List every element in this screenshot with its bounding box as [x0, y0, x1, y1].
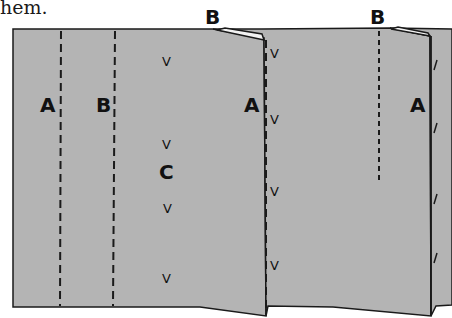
fabric-panel-left	[13, 29, 266, 316]
notch-mark: V	[162, 55, 171, 68]
notch-mark: V	[162, 272, 171, 285]
notch-mark: V	[270, 185, 279, 198]
label-a-right: A	[410, 95, 425, 115]
notch-mark: V	[270, 113, 279, 126]
notch-mark: V	[270, 259, 279, 272]
notch-mark: V	[270, 47, 279, 60]
label-a-middle: A	[244, 95, 259, 115]
label-c-center: C	[159, 162, 174, 182]
notch-mark: V	[162, 138, 171, 151]
label-b-left: B	[96, 95, 111, 115]
notch-mark: V	[163, 202, 172, 215]
label-a-left: A	[40, 95, 55, 115]
label-b-top-right: B	[370, 7, 385, 27]
label-b-top-middle: B	[205, 7, 220, 27]
fabric-diagram	[0, 0, 452, 318]
